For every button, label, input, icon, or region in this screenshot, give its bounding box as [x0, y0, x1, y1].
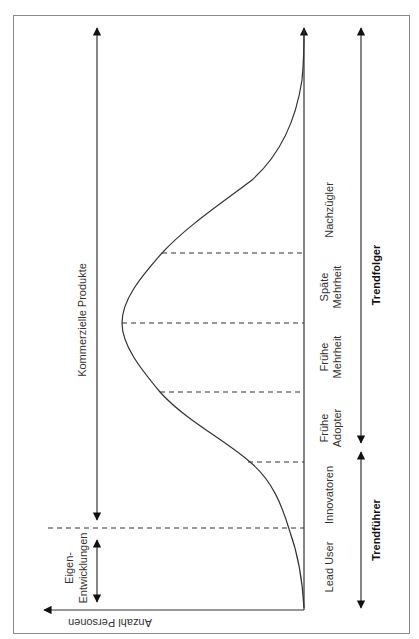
segment-early-majority-1: Frühe — [318, 343, 330, 372]
own-developments-label-1: Eigen- — [63, 552, 75, 584]
segment-early-majority-2: Mehrheit — [331, 336, 343, 379]
segment-lead-user: Lead User — [323, 541, 335, 592]
group-trendfolger: Trendfolger — [370, 244, 382, 305]
segment-early-adopters-2: Adopter — [331, 408, 343, 447]
commercial-products-label: Kommerzielle Produkte — [76, 263, 88, 377]
diffusion-diagram: Anzahl Personen Kommerzielle Produkte Ei… — [0, 0, 419, 639]
segment-late-majority-2: Mehrheit — [331, 266, 343, 309]
segment-late-majority-1: Späte — [318, 273, 330, 302]
segment-early-adopters-1: Frühe — [318, 414, 330, 443]
own-developments-label-2: Entwicklungen — [77, 533, 89, 604]
adoption-curve — [122, 30, 304, 608]
diagram-frame — [14, 16, 410, 634]
segment-laggards: Nachzügler — [323, 182, 335, 238]
segment-innovators: Innovatoren — [323, 466, 335, 524]
group-trendfuehrer: Trendführer — [370, 498, 382, 560]
persons-axis-label: Anzahl Personen — [68, 617, 152, 629]
